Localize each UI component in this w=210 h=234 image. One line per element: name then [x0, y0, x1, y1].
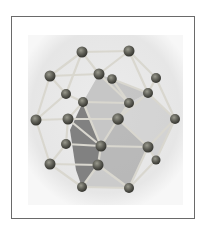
atom	[61, 89, 71, 99]
atom	[143, 88, 153, 98]
atom	[61, 139, 71, 149]
atom	[45, 159, 56, 170]
atom	[112, 113, 124, 125]
atom	[96, 141, 107, 152]
atom	[107, 74, 117, 84]
molecular-model-photo	[0, 0, 210, 234]
atom	[93, 160, 104, 171]
atom	[77, 182, 87, 192]
atom	[124, 46, 135, 57]
atom	[143, 142, 154, 153]
atom	[124, 98, 134, 108]
atom	[63, 114, 74, 125]
atom	[152, 156, 161, 165]
atom	[124, 183, 134, 193]
atom	[170, 114, 180, 124]
atom	[78, 97, 88, 107]
atom	[94, 69, 105, 80]
atom	[151, 73, 161, 83]
atom	[31, 115, 42, 126]
atom	[45, 71, 56, 82]
atom	[77, 47, 88, 58]
